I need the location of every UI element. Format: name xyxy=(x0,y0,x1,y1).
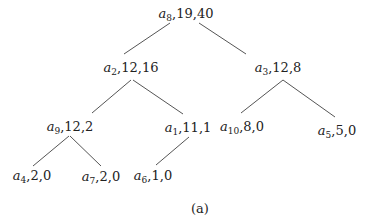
edge-a8-a2 xyxy=(124,23,170,54)
edge-a9-a7 xyxy=(70,136,101,166)
node-a9: a9,12,2 xyxy=(47,119,94,134)
edge-a3-a10 xyxy=(241,80,283,113)
edge-a1-a6 xyxy=(156,137,189,165)
node-a7: a7,2,0 xyxy=(82,169,120,184)
edge-a2-a1 xyxy=(133,80,183,114)
edge-a9-a4 xyxy=(33,136,69,166)
tree-edges xyxy=(0,0,369,222)
node-a6: a6,1,0 xyxy=(134,168,172,183)
node-a2: a2,12,16 xyxy=(104,60,159,75)
node-a8: a8,19,40 xyxy=(159,6,214,21)
edge-a3-a5 xyxy=(283,80,335,117)
node-a3: a3,12,8 xyxy=(255,60,302,75)
node-a10: a10,8,0 xyxy=(220,119,264,134)
edge-a2-a9 xyxy=(92,80,131,113)
node-a4: a4,2,0 xyxy=(13,168,51,183)
figure-caption: (a) xyxy=(191,201,209,216)
edge-a8-a3 xyxy=(199,23,246,54)
node-a1: a1,11,1 xyxy=(165,120,212,135)
node-a5: a5,5,0 xyxy=(318,123,356,138)
